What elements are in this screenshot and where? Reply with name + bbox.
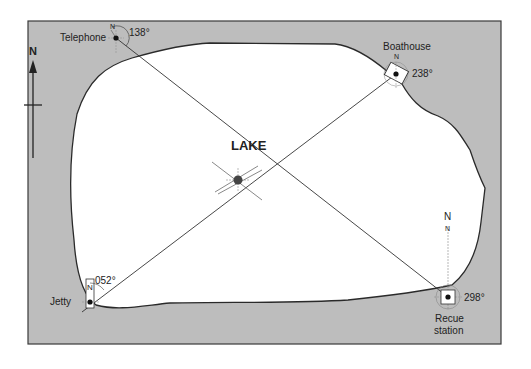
- jetty-label: Jetty: [50, 296, 71, 307]
- telephone-label: Telephone: [60, 32, 107, 43]
- rescue-bearing: 298°: [464, 292, 485, 303]
- telephone-north-label: N: [110, 23, 115, 30]
- lake-label: LAKE: [231, 138, 267, 153]
- boathouse-north-label: N: [394, 53, 399, 60]
- jetty-bearing: 052°: [95, 275, 116, 286]
- rescue-label-line1: Recue: [435, 313, 464, 324]
- north-arrow-label: N: [29, 45, 37, 57]
- telephone-bearing: 138°: [129, 27, 150, 38]
- boathouse-bearing: 238°: [412, 68, 433, 79]
- rescue-north-label-outer: N: [444, 211, 451, 222]
- rescue-label-line2: station: [434, 325, 463, 336]
- boathouse-label: Boathouse: [383, 41, 431, 52]
- lake-bearing-diagram: LAKE N Telephone N 138° Boathouse N 238°…: [0, 0, 531, 369]
- jetty-north-label: N: [87, 283, 93, 292]
- rescue-north-label-inner: N: [445, 225, 450, 232]
